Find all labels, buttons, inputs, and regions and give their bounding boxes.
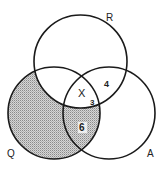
region-4: 4 bbox=[104, 79, 109, 89]
venn-diagram: R Q A X 3 4 6 bbox=[0, 0, 168, 170]
region-3: 3 bbox=[90, 98, 95, 107]
region-6: 6 bbox=[79, 122, 85, 133]
label-q: Q bbox=[7, 148, 15, 159]
label-r: R bbox=[106, 12, 113, 23]
label-a: A bbox=[147, 148, 154, 159]
region-x: X bbox=[78, 87, 86, 99]
